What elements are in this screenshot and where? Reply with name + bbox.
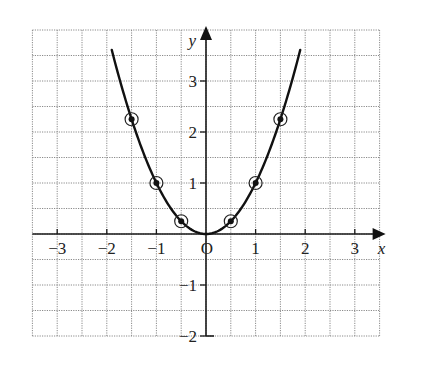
point-dot-icon — [277, 116, 283, 122]
x-tick-label: −3 — [48, 239, 66, 258]
y-tick-label: 3 — [189, 72, 198, 91]
axes — [32, 26, 385, 336]
x-tick-label: −2 — [98, 239, 116, 258]
data-point — [175, 215, 188, 228]
y-tick-label: 2 — [189, 123, 198, 142]
y-tick-label: −1 — [179, 276, 197, 295]
y-tick-label: 1 — [189, 174, 198, 193]
point-dot-icon — [253, 180, 259, 186]
x-axis-label: x — [377, 239, 386, 258]
data-point — [150, 177, 163, 190]
point-dot-icon — [178, 218, 184, 224]
point-dot-icon — [129, 116, 135, 122]
x-tick-label: 2 — [301, 239, 310, 258]
origin-label: O — [201, 239, 213, 258]
x-tick-label: 3 — [351, 239, 360, 258]
y-axis-label: y — [186, 31, 196, 50]
y-tick-label: −2 — [179, 327, 197, 346]
y-axis-arrow-icon — [200, 26, 212, 40]
parabola-chart: −3−2−1123321−1−2 x y O — [0, 0, 431, 374]
x-tick-label: 1 — [251, 239, 260, 258]
point-dot-icon — [153, 180, 159, 186]
data-point — [224, 215, 237, 228]
x-tick-label: −1 — [147, 239, 165, 258]
point-dot-icon — [228, 218, 234, 224]
